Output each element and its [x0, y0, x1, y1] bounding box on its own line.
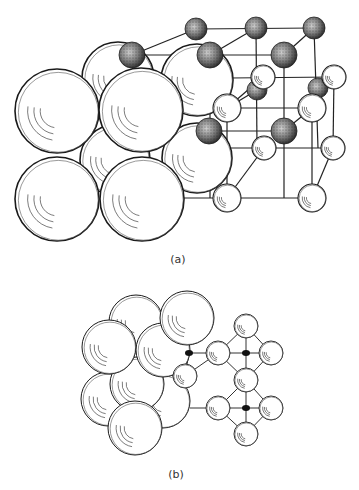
- small-ion-sphere: [259, 396, 283, 420]
- small-ion-sphere: [234, 368, 258, 392]
- white-ion-sphere: [251, 65, 275, 89]
- dark-ion-sphere: [119, 42, 145, 68]
- dark-ion-sphere: [303, 17, 325, 39]
- large-ion-sphere: [15, 69, 99, 153]
- large-ion-sphere: [15, 157, 99, 241]
- panel-a-label: (a): [158, 253, 198, 266]
- white-ion-sphere: [213, 184, 241, 212]
- large-ion-sphere: [82, 320, 136, 374]
- small-ion-sphere: [234, 422, 258, 446]
- small-ion-sphere: [234, 314, 258, 338]
- white-ion-sphere: [322, 65, 346, 89]
- dark-ion-sphere: [245, 17, 267, 39]
- dark-ion-dot: [242, 350, 250, 356]
- panel-a-large-spheres: [15, 42, 233, 241]
- crystal-structure-diagram: [0, 0, 359, 490]
- white-ion-sphere: [298, 94, 326, 122]
- large-ion-sphere: [99, 68, 183, 152]
- dark-ion-dot: [242, 405, 250, 411]
- small-ion-sphere: [173, 364, 197, 388]
- large-ion-sphere: [108, 401, 162, 455]
- large-ion-sphere: [100, 157, 184, 241]
- small-ion-sphere: [259, 341, 283, 365]
- small-ion-sphere: [206, 396, 230, 420]
- white-ion-sphere: [252, 136, 276, 160]
- dark-ion-sphere: [271, 118, 297, 144]
- white-ion-sphere: [298, 184, 326, 212]
- dark-ion-sphere: [197, 42, 223, 68]
- large-ion-sphere: [160, 291, 214, 345]
- small-ion-sphere: [206, 341, 230, 365]
- dark-ion-dot: [185, 350, 193, 356]
- dark-ion-sphere: [271, 42, 297, 68]
- dark-ion-sphere: [196, 118, 222, 144]
- dark-ion-sphere: [185, 18, 207, 40]
- white-ion-sphere: [213, 94, 241, 122]
- panel-b-label: (b): [156, 468, 196, 481]
- white-ion-sphere: [321, 136, 345, 160]
